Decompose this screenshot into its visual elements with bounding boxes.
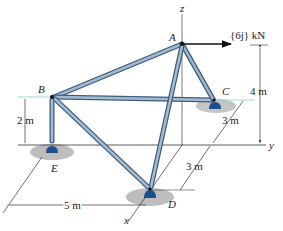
dim-4m-label: 4 m bbox=[250, 85, 267, 97]
load-label: {6j} kN bbox=[230, 29, 265, 41]
joint-label-e: E bbox=[50, 162, 58, 174]
joint-label-c: C bbox=[222, 85, 230, 97]
joint-b bbox=[50, 95, 54, 99]
dim-5m-ext bbox=[3, 157, 42, 213]
dim-2m-label: 2 m bbox=[17, 114, 34, 126]
joint-label-a: A bbox=[168, 31, 176, 43]
dim-3m-lower-label: 3 m bbox=[186, 160, 203, 172]
joint-c bbox=[212, 98, 215, 101]
truss-diagram: z y x A B C D E {6j} kN 4 m 2 m 3 m 3 m … bbox=[0, 0, 283, 231]
axis-label-z: z bbox=[179, 2, 185, 14]
joint-label-b: B bbox=[38, 83, 45, 95]
x-axis bbox=[128, 145, 182, 222]
dim-5m-label: 5 m bbox=[64, 199, 81, 211]
joint-d bbox=[148, 187, 151, 190]
truss-svg: z y x A B C D E {6j} kN 4 m 2 m 3 m 3 m … bbox=[0, 0, 283, 231]
axis-label-y: y bbox=[268, 139, 274, 151]
dim-3m-upper-label: 3 m bbox=[222, 114, 239, 126]
axis-label-x: x bbox=[123, 214, 129, 226]
joint-label-d: D bbox=[167, 198, 176, 210]
